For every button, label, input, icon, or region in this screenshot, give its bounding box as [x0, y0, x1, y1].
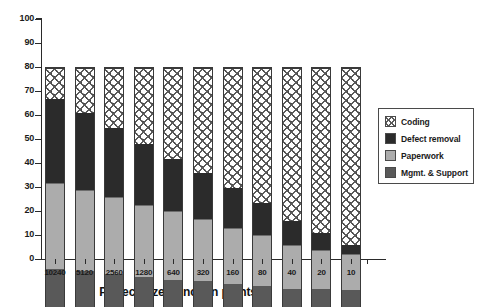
bar-segment-coding [342, 68, 360, 245]
bar-segment-mgmt [342, 290, 360, 307]
bar-segment-paper [283, 245, 301, 289]
bar-segment-coding [46, 68, 64, 99]
y-axis-tick-label: 40 [6, 158, 34, 167]
legend-label: Paperwork [401, 151, 444, 161]
bar-segment-mgmt [194, 281, 212, 307]
x-axis-tick [262, 259, 263, 264]
legend-swatch-coding [385, 116, 396, 127]
y-axis-tick [35, 187, 42, 188]
legend-swatch-paper [385, 150, 396, 161]
bar-segment-coding [164, 68, 182, 159]
bar-segment-mgmt [283, 289, 301, 307]
x-axis-end-tick [367, 259, 368, 264]
y-axis-tick-label: 0 [6, 254, 34, 263]
legend-label: Coding [401, 117, 430, 127]
bar-segment-defect [135, 144, 153, 205]
x-axis-tick [233, 259, 234, 264]
chart-container: 1009080706050403020100 Project size (fun… [0, 0, 478, 307]
y-axis-tick-label: 90 [6, 38, 34, 47]
y-axis-tick-label: 80 [6, 62, 34, 71]
bar-segment-coding [194, 68, 212, 173]
bar-segment-defect [76, 113, 94, 189]
y-axis-tick-label: 60 [6, 110, 34, 119]
bar-segment-defect [283, 221, 301, 245]
x-axis-tick [85, 259, 86, 264]
y-axis-tick [35, 235, 42, 236]
legend-item: Mgmt. & Support [382, 164, 470, 181]
bar-segment-mgmt [164, 280, 182, 307]
y-axis-tick [35, 19, 42, 20]
bar-segment-mgmt [224, 284, 242, 307]
bar-segment-coding [135, 68, 153, 144]
bar-segment-defect [342, 245, 360, 255]
legend-item: Paperwork [382, 147, 470, 164]
legend-item: Defect removal [382, 130, 470, 147]
legend-swatch-defect [385, 133, 396, 144]
bar-segment-mgmt [105, 274, 123, 307]
y-axis-tick [35, 67, 42, 68]
legend-item: Coding [382, 113, 470, 130]
bar-segment-defect [46, 99, 64, 183]
legend-label: Defect removal [401, 134, 461, 144]
y-axis-tick-label: 50 [6, 134, 34, 143]
x-axis-tick [114, 259, 115, 264]
bar-segment-defect [224, 188, 242, 229]
x-axis-tick [173, 259, 174, 264]
bar-segment-mgmt [312, 289, 330, 307]
y-axis-tick [35, 259, 42, 260]
bar-segment-coding [105, 68, 123, 128]
x-axis-tick [351, 259, 352, 264]
bar-segment-coding [283, 68, 301, 221]
y-axis-tick-label: 30 [6, 182, 34, 191]
x-axis-tick [203, 259, 204, 264]
x-axis-tick [144, 259, 145, 264]
legend-label: Mgmt. & Support [401, 168, 468, 178]
bar-segment-mgmt [135, 277, 153, 307]
bar-segment-defect [194, 173, 212, 218]
legend-swatch-mgmt [385, 167, 396, 178]
bar-segment-coding [253, 68, 271, 203]
bar-segment-defect [105, 128, 123, 197]
bar-segment-coding [312, 68, 330, 233]
y-axis-tick [35, 115, 42, 116]
y-axis-tick-label: 10 [6, 230, 34, 239]
x-axis-tick [292, 259, 293, 264]
bar-segment-coding [76, 68, 94, 113]
y-axis-tick [35, 91, 42, 92]
bar-segment-defect [164, 159, 182, 212]
x-axis-tick [55, 259, 56, 264]
y-axis-tick-label: 100 [6, 14, 34, 23]
bar-segment-paper [135, 205, 153, 277]
x-axis-tick [321, 259, 322, 264]
chart-legend: CodingDefect removalPaperworkMgmt. & Sup… [378, 108, 474, 184]
bar-segment-mgmt [253, 286, 271, 307]
bar-segment-paper [46, 183, 64, 269]
y-axis-tick [35, 43, 42, 44]
y-axis-tick [35, 211, 42, 212]
bar-segment-coding [224, 68, 242, 188]
x-axis-tick-label: 10 [331, 268, 371, 277]
bar-segment-defect [253, 203, 271, 235]
y-axis-tick [35, 139, 42, 140]
y-axis-labels: 1009080706050403020100 [0, 0, 34, 307]
bar-segment-defect [312, 233, 330, 250]
y-axis-tick [35, 163, 42, 164]
y-axis-tick-label: 20 [6, 206, 34, 215]
y-axis-tick-label: 70 [6, 86, 34, 95]
